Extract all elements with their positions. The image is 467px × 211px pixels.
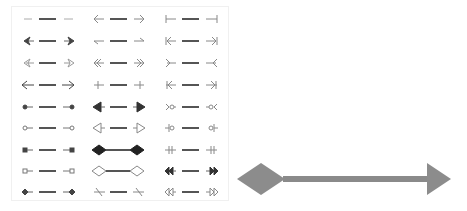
triangle-head-icon [427,163,451,195]
style-double-bar[interactable] [165,146,217,154]
style-reverse-arrow[interactable] [166,59,217,67]
style-square-open[interactable] [23,169,74,173]
example-arrow [235,160,455,200]
style-triangle-open[interactable] [93,123,145,133]
arrow-style-grid [12,7,228,200]
style-arrow-bar[interactable] [166,37,217,45]
style-stealth-filled[interactable] [24,37,74,45]
style-diamond-open[interactable] [92,166,144,176]
style-circle-bar[interactable] [165,124,218,132]
style-double-triangle-filled[interactable] [165,167,218,175]
arrow-shaft [283,176,429,182]
figure-caption [180,205,300,211]
arrow-style-panel [11,6,229,201]
style-arrow-open[interactable] [22,81,74,89]
style-double-arrow-line[interactable] [94,59,144,67]
style-square-filled[interactable] [23,148,74,152]
style-diamond-small-filled[interactable] [22,189,75,195]
style-arrow-cross[interactable] [166,81,217,89]
style-slash[interactable] [94,188,144,196]
style-bar[interactable] [166,15,217,23]
diamond-head-icon [237,163,285,195]
style-stealth-open[interactable] [24,59,74,67]
style-diamond-filled[interactable] [92,145,144,155]
style-cross-bar[interactable] [94,81,144,89]
style-fork-circle[interactable] [166,104,217,110]
style-half-arrow[interactable] [94,38,144,44]
style-double-triangle-open[interactable] [165,188,218,196]
style-dot-open[interactable] [23,126,74,130]
style-arrow-line[interactable] [94,15,144,23]
style-triangle-filled[interactable] [93,102,145,112]
style-dot-filled[interactable] [23,105,74,109]
